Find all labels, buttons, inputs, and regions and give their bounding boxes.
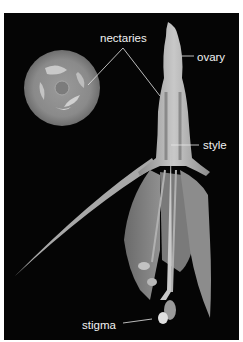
cross-section-inset [24, 50, 100, 126]
label-ovary: ovary [197, 51, 225, 63]
label-style: style [203, 139, 227, 151]
floral-tube [138, 22, 210, 176]
label-nectaries: nectaries [100, 32, 147, 44]
label-stigma: stigma [82, 319, 116, 331]
flower-photo: nectaries ovary style stigma [4, 13, 239, 340]
stigma-tip [158, 312, 168, 324]
